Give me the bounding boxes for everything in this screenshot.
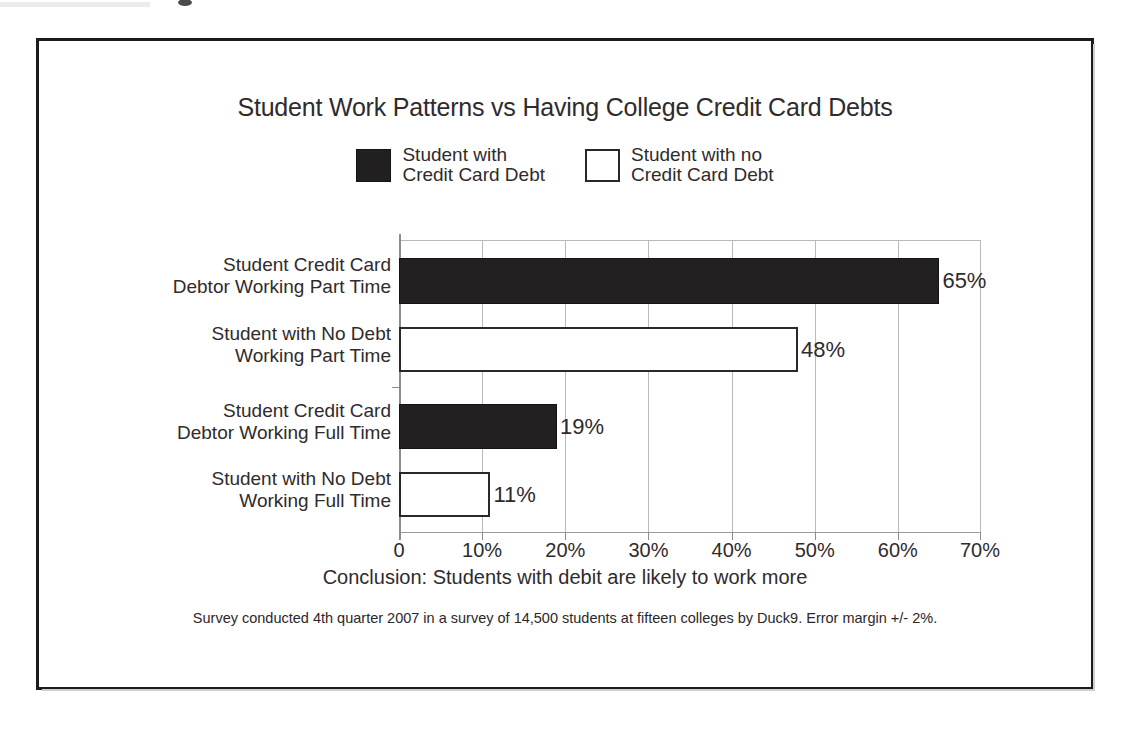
footnote-caption: Survey conducted 4th quarter 2007 in a s… — [39, 610, 1091, 626]
chart-legend: Student with Credit Card Debt Student wi… — [39, 145, 1091, 185]
bar-row-nodebt-part-time: 48% — [399, 327, 981, 372]
category-label-line2: Working Part Time — [235, 345, 391, 366]
category-label-line1: Student with No Debt — [211, 468, 391, 489]
legend-label-line1: Student with no — [631, 144, 762, 165]
conclusion-caption: Conclusion: Students with debit are like… — [39, 566, 1091, 589]
x-tick-label-0: 0 — [393, 539, 404, 562]
legend-label-line2: Credit Card Debt — [631, 164, 774, 185]
scan-artifact — [0, 0, 1130, 18]
chart-figure-frame: Student Work Patterns vs Having College … — [36, 38, 1094, 690]
scan-speck — [178, 0, 192, 6]
x-tick-label-10: 10% — [462, 539, 502, 562]
bar-row-debtor-part-time: 65% — [399, 258, 981, 304]
category-label-line1: Student with No Debt — [211, 323, 391, 344]
plot-area: 65% 48% 19% 11% — [399, 240, 981, 533]
bar-nodebt-part-time[interactable] — [399, 327, 798, 372]
chart-title: Student Work Patterns vs Having College … — [39, 93, 1091, 122]
category-label-line2: Debtor Working Part Time — [173, 276, 391, 297]
bar-value-debtor-part-time: 65% — [939, 268, 986, 294]
bar-value-nodebt-part-time: 48% — [798, 337, 845, 363]
x-tick-label-70: 70% — [960, 539, 1000, 562]
bar-value-debtor-full-time: 19% — [557, 414, 604, 440]
category-label-debtor-full-time: Student Credit Card Debtor Working Full … — [177, 400, 391, 444]
y-axis-mid-tick — [392, 387, 400, 388]
x-tick-label-50: 50% — [795, 539, 835, 562]
bar-debtor-part-time[interactable] — [399, 258, 939, 304]
x-tick-label-20: 20% — [545, 539, 585, 562]
bar-row-debtor-full-time: 19% — [399, 404, 981, 449]
legend-label-credit-card-debt: Student with Credit Card Debt — [402, 145, 545, 185]
bar-debtor-full-time[interactable] — [399, 404, 557, 449]
y-axis-category-labels: Student Credit Card Debtor Working Part … — [119, 240, 391, 533]
legend-swatch-filled-icon — [356, 149, 391, 182]
bar-nodebt-full-time[interactable] — [399, 472, 490, 517]
plot-top-rule — [399, 240, 981, 241]
category-label-debtor-part-time: Student Credit Card Debtor Working Part … — [173, 254, 391, 298]
category-label-nodebt-full-time: Student with No Debt Working Full Time — [211, 468, 391, 512]
x-tick-label-60: 60% — [878, 539, 918, 562]
category-label-line2: Debtor Working Full Time — [177, 422, 391, 443]
category-label-line2: Working Full Time — [239, 490, 391, 511]
x-tick-label-40: 40% — [712, 539, 752, 562]
legend-label-line1: Student with — [402, 144, 507, 165]
legend-item-credit-card-debt[interactable]: Student with Credit Card Debt — [356, 145, 545, 185]
x-axis-tick-labels: 0 10% 20% 30% 40% 50% 60% 70% — [399, 533, 981, 565]
category-label-line1: Student Credit Card — [223, 400, 391, 421]
legend-item-no-credit-card-debt[interactable]: Student with no Credit Card Debt — [585, 145, 774, 185]
x-tick-label-30: 30% — [628, 539, 668, 562]
category-label-line1: Student Credit Card — [223, 254, 391, 275]
legend-label-line2: Credit Card Debt — [402, 164, 545, 185]
legend-label-no-credit-card-debt: Student with no Credit Card Debt — [631, 145, 774, 185]
legend-swatch-hollow-icon — [585, 149, 620, 182]
bar-value-nodebt-full-time: 11% — [490, 482, 535, 508]
category-label-nodebt-part-time: Student with No Debt Working Part Time — [211, 323, 391, 367]
bar-row-nodebt-full-time: 11% — [399, 472, 981, 517]
scan-edge-sliver — [0, 2, 150, 7]
